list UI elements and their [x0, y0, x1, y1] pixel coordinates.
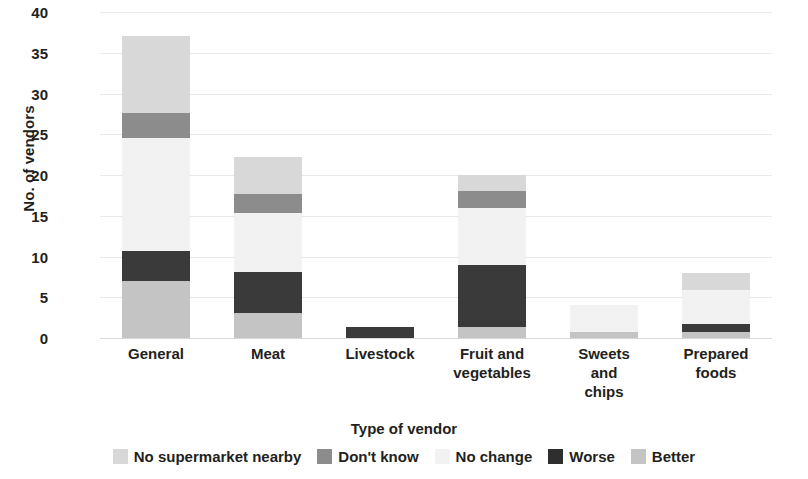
bar-segment[interactable]	[682, 332, 750, 338]
x-tick-label: Livestock	[324, 344, 436, 363]
bar-segment[interactable]	[682, 324, 750, 332]
x-tick-label-line: vegetables	[436, 363, 548, 382]
legend-label: Worse	[569, 448, 615, 465]
bar-segment[interactable]	[570, 332, 638, 338]
legend-swatch-icon	[435, 449, 450, 464]
bar-group[interactable]	[570, 12, 638, 338]
bar-segment[interactable]	[458, 175, 526, 191]
x-axis-title: Type of vendor	[0, 420, 808, 437]
legend-swatch-icon	[548, 449, 563, 464]
x-tick-label-line: Prepared	[660, 344, 772, 363]
bar-group[interactable]	[458, 12, 526, 338]
x-tick-label-line: General	[100, 344, 212, 363]
bar-segment[interactable]	[234, 272, 302, 313]
bar-segment[interactable]	[458, 265, 526, 328]
legend-swatch-icon	[113, 449, 128, 464]
bar-segment[interactable]	[234, 213, 302, 272]
bar-stack[interactable]	[570, 305, 638, 338]
y-tick-label-15: 15	[6, 209, 48, 224]
bar-group[interactable]	[346, 12, 414, 338]
y-tick-label-20: 20	[6, 168, 48, 183]
x-tick-label-line: Sweets	[548, 344, 660, 363]
bar-segment[interactable]	[682, 290, 750, 324]
bar-segment[interactable]	[682, 273, 750, 290]
legend-swatch-icon	[631, 449, 646, 464]
legend-swatch-icon	[317, 449, 332, 464]
x-tick-label: Meat	[212, 344, 324, 363]
bar-segment[interactable]	[234, 157, 302, 194]
bar-segment[interactable]	[234, 194, 302, 214]
y-tick-label-40: 40	[6, 5, 48, 20]
x-tick-label-line: Livestock	[324, 344, 436, 363]
y-tick-label-30: 30	[6, 87, 48, 102]
bar-segment[interactable]	[122, 113, 190, 138]
bar-segment[interactable]	[570, 305, 638, 332]
y-tick-label-5: 5	[6, 290, 48, 305]
bar-stack[interactable]	[122, 36, 190, 338]
bar-group[interactable]	[682, 12, 750, 338]
bar-stack[interactable]	[682, 273, 750, 338]
x-tick-label: Fruit andvegetables	[436, 344, 548, 382]
x-tick-label-line: foods	[660, 363, 772, 382]
bar-group[interactable]	[122, 12, 190, 338]
bar-segment[interactable]	[122, 138, 190, 250]
bar-segment[interactable]	[122, 36, 190, 113]
bar-stack[interactable]	[458, 175, 526, 338]
x-tick-label-line: and	[548, 363, 660, 382]
legend-label: No change	[456, 448, 533, 465]
bar-stack[interactable]	[346, 327, 414, 338]
bar-stack[interactable]	[234, 157, 302, 338]
x-tick-label-line: Fruit and	[436, 344, 548, 363]
legend-item[interactable]: Worse	[548, 448, 615, 465]
plot-area: 0510152025303540	[100, 12, 772, 338]
x-tick-label-line: Meat	[212, 344, 324, 363]
stacked-bar-chart: No. of vendors 0510152025303540 GeneralM…	[0, 0, 808, 479]
legend-item[interactable]: No change	[435, 448, 533, 465]
y-tick-label-25: 25	[6, 127, 48, 142]
chart-legend: No supermarket nearbyDon't knowNo change…	[0, 448, 808, 465]
x-axis-tick-labels: GeneralMeatLivestockFruit andvegetablesS…	[100, 344, 772, 414]
y-tick-label-10: 10	[6, 250, 48, 265]
bar-group[interactable]	[234, 12, 302, 338]
legend-label: No supermarket nearby	[134, 448, 302, 465]
bar-segment[interactable]	[122, 251, 190, 281]
x-tick-label: Sweetsandchips	[548, 344, 660, 401]
legend-item[interactable]: Better	[631, 448, 695, 465]
bar-segment[interactable]	[458, 327, 526, 338]
legend-label: Don't know	[338, 448, 418, 465]
bar-segment[interactable]	[346, 327, 414, 338]
bar-segment[interactable]	[234, 313, 302, 338]
legend-item[interactable]: Don't know	[317, 448, 418, 465]
x-tick-label: Preparedfoods	[660, 344, 772, 382]
legend-item[interactable]: No supermarket nearby	[113, 448, 302, 465]
y-tick-label-35: 35	[6, 46, 48, 61]
bar-segment[interactable]	[122, 281, 190, 338]
bars-layer	[100, 12, 772, 338]
legend-label: Better	[652, 448, 695, 465]
y-tick-label-0: 0	[6, 331, 48, 346]
x-tick-label-line: chips	[548, 382, 660, 401]
x-tick-label: General	[100, 344, 212, 363]
bar-segment[interactable]	[458, 191, 526, 207]
bar-segment[interactable]	[458, 208, 526, 265]
gridline-0	[100, 338, 772, 339]
